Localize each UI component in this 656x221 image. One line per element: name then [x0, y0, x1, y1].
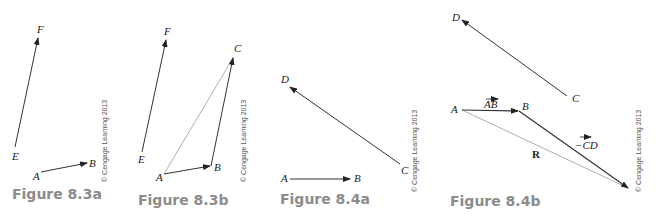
- figure-8-3b: F E A B C © Cengage Learning 2013 Figure…: [137, 25, 248, 208]
- vector-cd: [462, 20, 567, 96]
- vector-ab: [462, 110, 518, 111]
- point-c-label: C: [401, 164, 409, 176]
- point-b-label: B: [354, 172, 361, 184]
- resultant-r: [462, 110, 628, 188]
- point-a-label: A: [155, 171, 163, 183]
- vector-ab: [41, 163, 87, 172]
- vector-ef: [15, 38, 38, 147]
- point-f-label: F: [36, 23, 44, 35]
- point-c-label: C: [572, 92, 580, 104]
- point-e-label: E: [137, 153, 145, 165]
- point-a-label: A: [450, 103, 458, 115]
- resultant-r-label: R: [532, 148, 541, 160]
- copyright-text: © Cengage Learning 2013: [101, 100, 109, 182]
- vector-ab-label: AB: [483, 98, 498, 110]
- figure-caption: Figure 8.3a: [12, 186, 102, 202]
- figure-8-4b: D C A B AB −CD R © Cengage Learning 2013…: [450, 11, 643, 209]
- vector-bc: [211, 58, 233, 166]
- figure-caption: Figure 8.4a: [280, 191, 370, 207]
- copyright-text: © Cengage Learning 2013: [411, 110, 419, 192]
- copyright-text: © Cengage Learning 2013: [240, 100, 248, 182]
- figure-caption: Figure 8.3b: [138, 192, 228, 208]
- figure-8-3a: F E A B © Cengage Learning 2013 Figure 8…: [11, 23, 109, 202]
- point-a-label: A: [280, 172, 288, 184]
- point-e-label: E: [11, 150, 19, 162]
- point-c-label: C: [234, 42, 242, 54]
- point-b-label: B: [522, 100, 529, 112]
- vector-ab: [164, 166, 210, 174]
- point-d-label: D: [451, 11, 460, 23]
- point-a-label: A: [32, 170, 40, 182]
- figure-8-4a: D C A B © Cengage Learning 2013 Figure 8…: [280, 73, 419, 207]
- point-b-label: B: [89, 157, 96, 169]
- svg-text:−CD: −CD: [575, 139, 598, 151]
- copyright-text: © Cengage Learning 2013: [635, 110, 643, 192]
- point-d-label: D: [280, 73, 289, 85]
- figure-caption: Figure 8.4b: [450, 193, 540, 209]
- point-b-label: B: [214, 161, 221, 173]
- vector-neg-cd-label: −CD: [575, 137, 598, 151]
- vector-figures: F E A B © Cengage Learning 2013 Figure 8…: [0, 0, 656, 221]
- svg-text:AB: AB: [483, 98, 498, 110]
- resultant-ac: [164, 58, 233, 174]
- vector-ef: [142, 40, 166, 152]
- point-f-label: F: [163, 25, 171, 37]
- vector-cd: [290, 87, 400, 164]
